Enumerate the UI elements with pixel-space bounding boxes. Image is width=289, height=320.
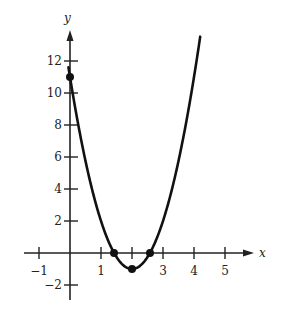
y-axis-arrow-icon <box>67 30 74 41</box>
x-axis-arrow-icon <box>243 250 254 257</box>
point-root-2 <box>146 249 154 257</box>
ticks: −11345−224681012 <box>30 54 229 292</box>
y-tick-label: 10 <box>47 86 62 100</box>
y-tick-label: 2 <box>54 214 62 228</box>
y-tick-label: 8 <box>54 118 62 132</box>
parabola-curve <box>68 37 200 269</box>
x-tick-label: 3 <box>159 264 167 278</box>
x-axis-label: x <box>259 246 266 260</box>
x-tick-label: −1 <box>30 264 48 278</box>
x-tick-label: 1 <box>97 264 105 278</box>
x-tick-label: 5 <box>221 264 229 278</box>
y-tick-label: 4 <box>54 182 62 196</box>
y-tick-label: −2 <box>44 278 62 292</box>
point-y-intercept <box>66 73 74 81</box>
x-tick-label: 4 <box>190 264 198 278</box>
point-vertex <box>128 265 136 273</box>
y-tick-label: 12 <box>47 54 62 68</box>
y-tick-label: 6 <box>54 150 62 164</box>
point-root-1 <box>110 249 118 257</box>
parabola-chart: x y −11345−224681012 <box>0 0 289 320</box>
y-axis-label: y <box>63 11 71 25</box>
